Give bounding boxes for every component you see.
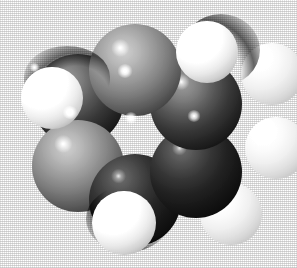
atom-hydrogen-H2 xyxy=(241,43,297,105)
benzene-space-filling-model xyxy=(0,0,297,268)
molecule-viewport: Grayscale space-filling molecular model … xyxy=(0,0,297,268)
atom-hydrogen-H1 xyxy=(176,21,238,83)
atom-carbon-C1 xyxy=(89,24,181,116)
atom-hydrogen-H5 xyxy=(92,191,156,255)
atom-hydrogen-H3 xyxy=(245,117,297,179)
atom-hydrogen-H6 xyxy=(21,67,83,129)
